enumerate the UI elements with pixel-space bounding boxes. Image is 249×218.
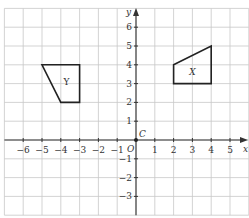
y-axis-label: y [125, 7, 132, 17]
shapes [42, 46, 211, 102]
x-tick-label: −2 [92, 145, 105, 155]
x-tick-label: −6 [17, 145, 31, 155]
y-tick-label: 5 [126, 41, 132, 51]
labels: −6−5−4−3−2−112345−3−2−1123456xyOCYX [17, 7, 249, 201]
origin-label: O [127, 144, 135, 154]
coordinate-grid: −6−5−4−3−2−112345−3−2−1123456xyOCYX [0, 0, 249, 218]
point-c-label: C [139, 129, 146, 139]
x-tick-label: −3 [73, 145, 87, 155]
y-tick-label: −3 [119, 191, 133, 201]
y-tick-label: −1 [119, 154, 132, 164]
x-axis-label: x [243, 144, 248, 154]
shape-y-label: Y [62, 77, 70, 87]
point-c [134, 138, 138, 142]
y-tick-label: 1 [126, 116, 132, 126]
y-tick-label: 2 [126, 97, 132, 107]
x-tick-label: 5 [227, 145, 233, 155]
x-tick-label: 1 [152, 145, 158, 155]
shape-x-label: X [188, 67, 196, 77]
y-tick-label: 3 [126, 79, 132, 89]
grid-lines [4, 8, 248, 215]
x-tick-label: −5 [35, 145, 49, 155]
y-tick-label: −2 [119, 173, 132, 183]
x-tick-label: −4 [54, 145, 68, 155]
x-tick-label: 2 [171, 145, 177, 155]
x-tick-label: 3 [190, 145, 196, 155]
x-axis-arrow-icon [240, 137, 248, 143]
x-tick-label: 4 [208, 145, 214, 155]
y-tick-label: 6 [126, 22, 132, 32]
y-axis-arrow-icon [133, 8, 139, 16]
y-tick-label: 4 [126, 60, 132, 70]
